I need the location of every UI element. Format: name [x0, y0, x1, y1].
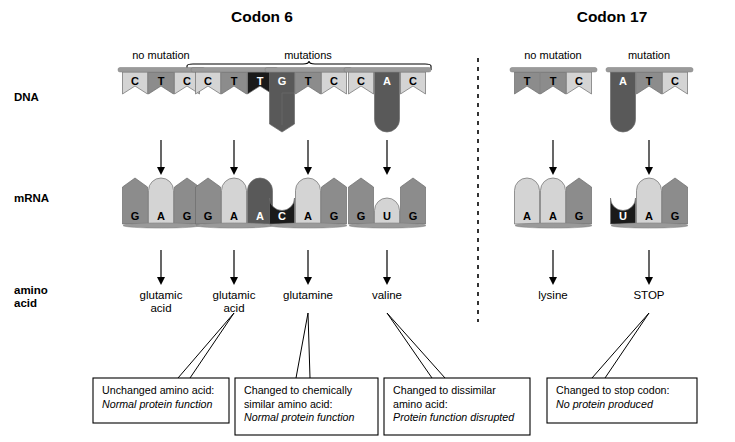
mrna-base-label-col4-0: G — [357, 210, 366, 222]
amino-acid-label-col5: lysine — [538, 289, 567, 301]
callout-leader-box4-a — [592, 313, 649, 378]
dna-base-label-col4-0: C — [357, 75, 365, 87]
mrna-base-label-col5-1: A — [549, 210, 557, 222]
dna-base-label-col3-2: C — [330, 75, 338, 87]
dna-base-label-col5-2: C — [575, 75, 583, 87]
dna-base-label-col5-0: T — [524, 75, 531, 87]
dna-backbone-col5 — [510, 68, 597, 73]
callout-leader-box2-b — [308, 313, 310, 378]
mrna-backbone-col2 — [196, 223, 273, 228]
panel-title-codon6: Codon 6 — [231, 8, 293, 25]
mrna-base-label-col6-2: G — [671, 210, 680, 222]
mrna-backbone-col3 — [270, 223, 347, 228]
amino-acid-label-col4: valine — [372, 289, 402, 301]
row-label-amino-acid: amino — [14, 284, 48, 296]
callout-line-box3-2: Protein function disrupted — [393, 411, 515, 423]
mrna-base-label-col3-2: G — [330, 210, 339, 222]
callout-leader-box1-a — [178, 313, 234, 378]
dna-base-label-col1-0: C — [131, 75, 139, 87]
arrow-mrna-to-aa-6-head — [645, 277, 653, 285]
mrna-base-label-col1-2: G — [183, 210, 192, 222]
mrna-base-label-col4-1: U — [383, 210, 391, 222]
callout-line-box1-0: Unchanged amino acid: — [102, 384, 214, 396]
dna-base-label-col3-0: G — [278, 75, 287, 87]
mrna-base-label-col5-0: A — [523, 210, 531, 222]
dna-base-label-col3-1: T — [305, 75, 312, 87]
column-header-1: mutations — [284, 49, 332, 61]
mrna-base-label-col5-2: G — [575, 210, 584, 222]
dna-base-label-col2-1: T — [231, 75, 238, 87]
amino-acid-label-col1: acid — [150, 302, 171, 314]
arrow-dna-to-mrna-1-head — [157, 167, 165, 175]
dna-base-label-col4-2: C — [409, 75, 417, 87]
dna-backbone-col4 — [344, 68, 431, 73]
dna-base-label-col2-2: T — [257, 75, 264, 87]
mrna-base-label-col2-0: G — [204, 210, 213, 222]
arrow-mrna-to-aa-2-head — [230, 277, 238, 285]
dna-base-label-col6-0: A — [619, 75, 627, 87]
mrna-backbone-col6 — [611, 223, 688, 228]
arrow-mrna-to-aa-5-head — [549, 277, 557, 285]
row-label-amino-acid: acid — [14, 297, 37, 309]
dna-base-label-col4-1: A — [383, 75, 391, 87]
dna-base-label-col6-1: T — [646, 75, 653, 87]
arrow-dna-to-mrna-2-head — [230, 167, 238, 175]
column-header-3: mutation — [628, 49, 670, 61]
callout-leader-box3-a — [387, 313, 445, 378]
amino-acid-label-col2: glutamic — [213, 289, 256, 301]
mrna-base-label-col4-2: G — [409, 210, 418, 222]
amino-acid-label-col1: glutamic — [140, 289, 183, 301]
callout-line-box4-0: Changed to stop codon: — [556, 384, 670, 396]
mrna-base-label-col6-0: U — [619, 210, 627, 222]
amino-acid-label-col6: STOP — [633, 289, 664, 301]
arrow-mrna-to-aa-3-head — [304, 277, 312, 285]
callout-line-box2-0: Changed to chemically — [244, 384, 353, 396]
amino-acid-label-col2: acid — [223, 302, 244, 314]
dna-backbone-col6 — [606, 68, 693, 73]
arrow-dna-to-mrna-6-head — [645, 167, 653, 175]
mrna-base-label-col2-1: A — [230, 210, 238, 222]
mrna-backbone-col4 — [349, 223, 426, 228]
dna-base-label-col2-0: C — [204, 75, 212, 87]
column-header-2: no mutation — [524, 49, 581, 61]
row-label-mrna: mRNA — [14, 192, 49, 204]
mrna-backbone-col5 — [515, 223, 592, 228]
mrna-base-label-col3-0: C — [278, 210, 286, 222]
callout-line-box2-1: similar amino acid: — [244, 398, 333, 410]
callout-leader-box1-b — [190, 313, 234, 378]
callout-line-box3-1: amino acid: — [393, 398, 448, 410]
arrow-mrna-to-aa-1-head — [157, 277, 165, 285]
callout-leader-box3-b — [387, 313, 432, 378]
dna-base-label-col1-2: C — [183, 75, 191, 87]
callout-line-box2-2: Normal protein function — [244, 411, 355, 423]
dna-base-label-col1-1: T — [158, 75, 165, 87]
callout-leader-box4-b — [605, 313, 649, 378]
arrow-dna-to-mrna-3-head — [304, 167, 312, 175]
arrow-dna-to-mrna-5-head — [549, 167, 557, 175]
callout-leader-box2-a — [296, 313, 308, 378]
arrow-dna-to-mrna-4-head — [383, 167, 391, 175]
dna-base-label-col5-1: T — [550, 75, 557, 87]
column-header-0: no mutation — [132, 49, 189, 61]
callout-line-box1-1: Normal protein function — [102, 398, 213, 410]
dna-backbone-col3 — [265, 68, 352, 73]
row-label-dna: DNA — [14, 91, 39, 103]
panel-title-codon17: Codon 17 — [577, 8, 648, 25]
mrna-base-label-col6-1: A — [645, 210, 653, 222]
callout-line-box3-0: Changed to dissimilar — [393, 384, 496, 396]
mrna-base-label-col3-1: A — [304, 210, 312, 222]
amino-acid-label-col3: glutamine — [283, 289, 333, 301]
mrna-backbone-col1 — [123, 223, 200, 228]
figure-canvas: Codon 6Codon 17DNAmRNAaminoacidno mutati… — [0, 0, 735, 442]
mrna-base-label-col2-2: A — [256, 210, 264, 222]
mrna-base-label-col1-1: A — [157, 210, 165, 222]
codon-mutation-diagram: Codon 6Codon 17DNAmRNAaminoacidno mutati… — [0, 0, 735, 442]
mrna-base-label-col1-0: G — [131, 210, 140, 222]
arrow-mrna-to-aa-4-head — [383, 277, 391, 285]
dna-base-label-col6-2: C — [671, 75, 679, 87]
callout-line-box4-1: No protein produced — [556, 398, 654, 410]
